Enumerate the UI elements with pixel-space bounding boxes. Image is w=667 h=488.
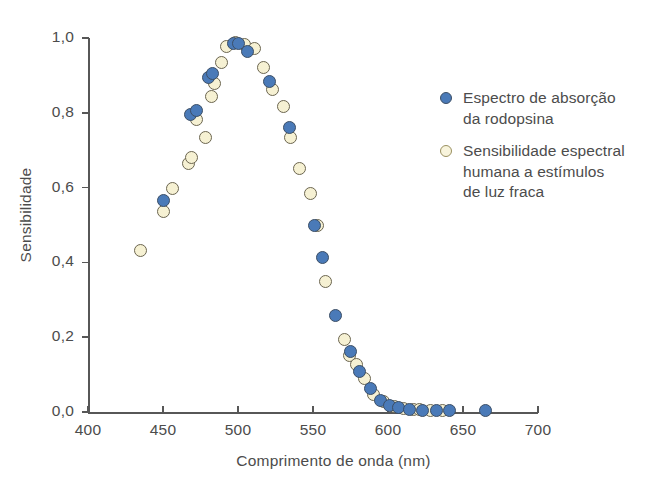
data-point-human-sensitivity: [277, 100, 290, 113]
x-axis-title: Comprimento de onda (nm): [0, 452, 667, 470]
data-point-rhodopsin: [308, 219, 321, 232]
data-point-human-sensitivity: [185, 151, 198, 164]
data-point-human-sensitivity: [205, 90, 218, 103]
legend-marker-filled-circle-icon: [440, 92, 452, 104]
data-point-rhodopsin: [157, 194, 170, 207]
data-point-human-sensitivity: [304, 187, 317, 200]
y-tick-mark: [82, 262, 89, 264]
data-point-rhodopsin: [316, 251, 329, 264]
data-point-rhodopsin: [190, 104, 203, 117]
chart-canvas: 0,00,20,40,60,81,0 400450500550600650700…: [0, 0, 667, 488]
y-tick-mark: [82, 37, 89, 39]
data-point-human-sensitivity: [215, 56, 228, 69]
data-point-rhodopsin: [283, 121, 296, 134]
data-point-rhodopsin: [416, 404, 429, 417]
legend-marker-open-circle-icon: [440, 145, 452, 157]
data-point-human-sensitivity: [157, 205, 170, 218]
data-point-rhodopsin: [344, 345, 357, 358]
y-tick-mark: [82, 336, 89, 338]
y-tick-mark: [82, 112, 89, 114]
data-point-human-sensitivity: [199, 131, 212, 144]
x-tick-label: 650: [433, 421, 493, 439]
data-point-rhodopsin: [403, 403, 416, 416]
data-point-rhodopsin: [479, 404, 492, 417]
x-tick-label: 400: [58, 421, 118, 439]
x-tick-mark: [237, 406, 239, 413]
data-point-rhodopsin: [430, 404, 443, 417]
data-point-rhodopsin: [329, 309, 342, 322]
x-tick-label: 600: [358, 421, 418, 439]
data-point-rhodopsin: [353, 365, 366, 378]
y-tick-label: 0,8: [24, 103, 74, 121]
y-tick-label: 1,0: [24, 28, 74, 46]
y-axis-line: [88, 38, 90, 414]
data-point-human-sensitivity: [257, 61, 270, 74]
legend-label-rhodopsin: Espectro de absorção da rodopsina: [463, 88, 616, 129]
legend-item-rhodopsin: Espectro de absorção da rodopsina: [440, 88, 665, 129]
data-point-rhodopsin: [206, 67, 219, 80]
x-tick-mark: [462, 406, 464, 413]
y-tick-label: 0,2: [24, 327, 74, 345]
x-tick-label: 700: [508, 421, 568, 439]
legend-label-human-sensitivity: Sensibilidade espectral humana a estímul…: [463, 141, 625, 203]
data-point-human-sensitivity: [166, 182, 179, 195]
y-axis-title: Sensibilidade: [17, 125, 35, 305]
legend-item-human-sensitivity: Sensibilidade espectral humana a estímul…: [440, 141, 665, 203]
data-point-human-sensitivity: [338, 333, 351, 346]
data-point-rhodopsin: [241, 45, 254, 58]
x-tick-label: 500: [208, 421, 268, 439]
y-tick-label: 0,0: [24, 402, 74, 420]
x-tick-label: 550: [283, 421, 343, 439]
data-point-rhodopsin: [364, 382, 377, 395]
data-point-rhodopsin: [263, 75, 276, 88]
data-point-human-sensitivity: [293, 162, 306, 175]
y-tick-mark: [82, 187, 89, 189]
x-tick-mark: [312, 406, 314, 413]
data-point-human-sensitivity: [319, 275, 332, 288]
x-tick-label: 450: [133, 421, 193, 439]
x-tick-mark: [162, 406, 164, 413]
data-point-rhodopsin: [443, 404, 456, 417]
data-point-human-sensitivity: [134, 244, 147, 257]
chart-legend: Espectro de absorção da rodopsina Sensib…: [440, 88, 665, 215]
x-tick-mark: [87, 406, 89, 413]
x-tick-mark: [537, 406, 539, 413]
